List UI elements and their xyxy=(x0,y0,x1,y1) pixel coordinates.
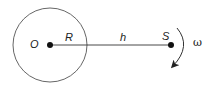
satellite-point-S xyxy=(168,42,174,48)
label-satellite-S: S xyxy=(162,30,170,42)
label-radius-R: R xyxy=(65,31,73,43)
label-distance-h: h xyxy=(120,31,126,43)
center-point-O xyxy=(47,42,53,48)
label-center-O: O xyxy=(30,38,39,50)
rotation-arrow-icon xyxy=(173,28,184,66)
orbit-diagram: O R h S ω xyxy=(0,0,210,86)
label-angular-velocity-omega: ω xyxy=(193,36,202,49)
